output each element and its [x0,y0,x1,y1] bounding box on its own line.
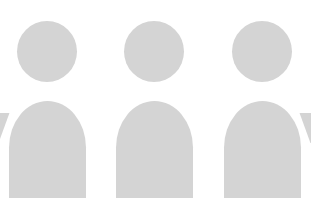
person-body-icon [9,101,86,198]
person-head-icon [17,21,77,82]
partial-person-right-shoulder [300,113,311,143]
person-head-icon [232,21,292,82]
people-placeholder-illustration [0,0,311,201]
person-body-icon [224,101,301,198]
person-head-icon [124,21,184,82]
partial-person-left-shoulder [0,113,9,143]
person-body-icon [116,101,193,198]
